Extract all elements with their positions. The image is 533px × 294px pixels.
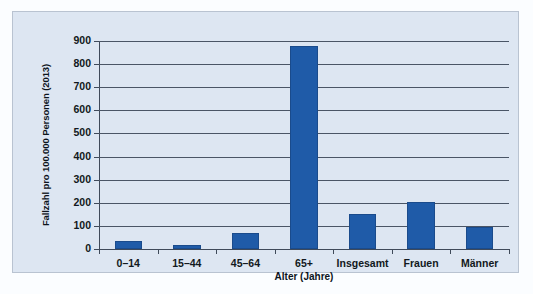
y-tick-mark — [94, 87, 99, 88]
y-tick-label: 500 — [73, 126, 91, 139]
y-tick: 700 — [99, 87, 100, 88]
y-tick: 400 — [99, 157, 100, 158]
x-tick-mark — [275, 249, 276, 254]
y-tick-label: 100 — [73, 219, 91, 232]
y-tick-label: 700 — [73, 80, 91, 93]
x-category-label: 45–64 — [216, 257, 275, 269]
y-tick-mark — [94, 41, 99, 42]
chart-panel: Fallzahl pro 100.000 Personen (2013) 010… — [12, 11, 519, 273]
y-tick-label: 0 — [85, 242, 91, 255]
bar-65 — [290, 46, 318, 249]
y-tick: 500 — [99, 133, 100, 134]
y-tick-label: 300 — [73, 173, 91, 186]
y-tick-mark — [94, 157, 99, 158]
bar-15-44 — [173, 245, 201, 249]
y-tick: 300 — [99, 180, 100, 181]
y-tick-mark — [94, 133, 99, 134]
x-axis-title: Alter (Jahre) — [99, 271, 509, 282]
gridline — [99, 249, 509, 250]
y-tick-mark — [94, 180, 99, 181]
y-tick: 600 — [99, 110, 100, 111]
x-category-label: 15–44 — [158, 257, 217, 269]
x-category-label: Insgesamt — [333, 257, 392, 269]
gridline — [99, 41, 509, 42]
y-axis-title: Fallzahl pro 100.000 Personen (2013) — [40, 41, 54, 249]
bar-frauen — [407, 202, 435, 249]
x-category-label: 0–14 — [99, 257, 158, 269]
bar-m-nner — [466, 227, 494, 249]
y-tick-mark — [94, 110, 99, 111]
x-tick-mark — [158, 249, 159, 254]
y-tick-label: 400 — [73, 150, 91, 163]
bar-45-64 — [232, 233, 260, 249]
y-tick-mark — [94, 64, 99, 65]
x-category-label: 65+ — [275, 257, 334, 269]
x-tick-mark — [509, 249, 510, 254]
y-tick-label: 800 — [73, 57, 91, 70]
x-tick-mark — [333, 249, 334, 254]
x-tick-mark — [450, 249, 451, 254]
y-tick: 800 — [99, 64, 100, 65]
y-tick-mark — [94, 203, 99, 204]
y-tick-label: 900 — [73, 34, 91, 47]
chart-figure: Fallzahl pro 100.000 Personen (2013) 010… — [0, 0, 533, 294]
x-tick-mark — [392, 249, 393, 254]
y-tick: 900 — [99, 41, 100, 42]
x-category-label: Männer — [450, 257, 509, 269]
bar-0-14 — [115, 241, 143, 249]
plot-area: 0100200300400500600700800900 0–1415–4445… — [99, 41, 509, 249]
x-tick-mark — [216, 249, 217, 254]
y-tick: 100 — [99, 226, 100, 227]
x-category-label: Frauen — [392, 257, 451, 269]
bar-insgesamt — [349, 214, 377, 249]
y-tick-mark — [94, 226, 99, 227]
x-tick-mark — [99, 249, 100, 254]
y-tick-label: 200 — [73, 196, 91, 209]
y-tick: 200 — [99, 203, 100, 204]
y-tick-label: 600 — [73, 103, 91, 116]
